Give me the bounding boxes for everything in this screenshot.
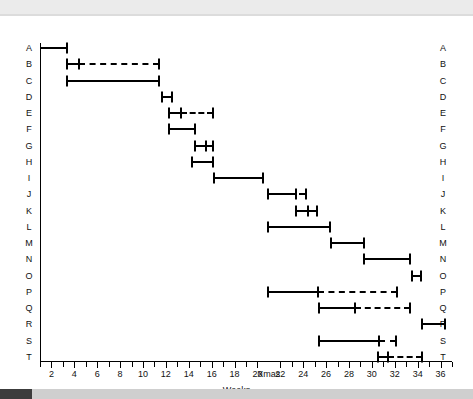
x-axis-tick <box>372 362 373 368</box>
gantt-cap-end-r <box>444 319 446 330</box>
x-axis-tick <box>223 362 224 367</box>
gantt-cap-dashed-end-k <box>316 205 318 216</box>
row-label-left-k: K <box>24 206 34 215</box>
gantt-bar-solid-l <box>268 226 330 228</box>
gantt-cap-dashed-end-q <box>409 303 411 314</box>
gantt-chart-figure: 2468101214161820Xmas2224262830323436 ABC… <box>0 16 473 389</box>
row-label-left-a: A <box>24 44 34 53</box>
gantt-cap-start-s <box>318 335 320 346</box>
gantt-bar-dashed-q <box>355 307 410 309</box>
row-label-left-l: L <box>24 222 34 231</box>
x-axis-tick <box>189 362 190 368</box>
horizontal-scrollbar-track[interactable] <box>0 389 473 399</box>
gantt-bar-solid-q <box>319 307 354 309</box>
row-label-left-q: Q <box>24 304 34 313</box>
gantt-bar-dashed-t <box>388 356 422 358</box>
gantt-cap-dashed-end-p <box>396 286 398 297</box>
x-axis-tick <box>406 362 407 367</box>
row-label-left-p: P <box>24 287 34 296</box>
row-label-left-j: J <box>24 190 34 199</box>
x-axis-tick <box>280 362 281 368</box>
row-label-left-r: R <box>24 320 34 329</box>
row-label-right-j: J <box>438 190 448 199</box>
row-label-right-g: G <box>438 141 448 150</box>
gantt-cap-start-e <box>168 108 170 119</box>
row-label-right-k: K <box>438 206 448 215</box>
gantt-cap-start-q <box>318 303 320 314</box>
x-axis-tick <box>315 362 316 367</box>
gantt-cap-end-i <box>262 173 264 184</box>
gantt-cap-end-l <box>329 221 331 232</box>
gantt-cap-end-m <box>363 238 365 249</box>
row-label-left-g: G <box>24 141 34 150</box>
gantt-cap-start-t <box>377 352 379 363</box>
x-axis-tick <box>86 362 87 367</box>
gantt-cap-start-i <box>213 173 215 184</box>
row-label-right-b: B <box>438 60 448 69</box>
x-axis-tick-label: 16 <box>207 369 217 379</box>
gantt-cap-start-g <box>194 140 196 151</box>
x-axis-tick <box>200 362 201 367</box>
gantt-cap-dashed-end-t <box>421 352 423 363</box>
gantt-cap-end-o <box>420 270 422 281</box>
row-label-right-n: N <box>438 255 448 264</box>
x-axis-tick-label: 14 <box>184 369 194 379</box>
x-axis-tick <box>154 362 155 367</box>
gantt-cap-start-j <box>267 189 269 200</box>
row-label-right-s: S <box>438 336 448 345</box>
x-axis-tick <box>418 362 419 368</box>
gantt-cap-end-c <box>158 75 160 86</box>
row-label-right-a: A <box>438 44 448 53</box>
x-axis-tick <box>360 362 361 367</box>
gantt-bar-dashed-b <box>79 63 159 65</box>
x-axis-tick-label: 12 <box>161 369 171 379</box>
x-axis-tick-label: 10 <box>138 369 148 379</box>
gantt-bar-solid-m <box>331 242 364 244</box>
x-axis-tick-label: 4 <box>72 369 77 379</box>
gantt-bar-solid-f <box>169 128 194 130</box>
gantt-bar-dashed-s <box>379 340 396 342</box>
gantt-cap-start-k <box>295 205 297 216</box>
horizontal-scrollbar-thumb[interactable] <box>0 389 32 399</box>
row-label-left-f: F <box>24 125 34 134</box>
gantt-bar-solid-c <box>67 80 159 82</box>
x-axis-tick <box>326 362 327 368</box>
x-axis-tick <box>452 362 453 367</box>
row-label-left-n: N <box>24 255 34 264</box>
row-label-left-s: S <box>24 336 34 345</box>
row-label-right-p: P <box>438 287 448 296</box>
gantt-bar-solid-j <box>268 193 297 195</box>
row-label-left-i: I <box>24 174 34 183</box>
x-axis-tick <box>63 362 64 367</box>
gantt-cap-end-d <box>171 91 173 102</box>
x-axis-tick <box>441 362 442 368</box>
gantt-cap-dashed-end-b <box>158 59 160 70</box>
x-axis-tick <box>97 362 98 368</box>
x-axis-tick <box>338 362 339 367</box>
gantt-cap-end-f <box>194 124 196 135</box>
x-axis-tick-label: 30 <box>367 369 377 379</box>
row-label-right-c: C <box>438 76 448 85</box>
x-axis-tick-label: 2 <box>49 369 54 379</box>
x-axis-tick <box>120 362 121 368</box>
gantt-cap-start-d <box>161 91 163 102</box>
x-axis-tick <box>303 362 304 368</box>
gantt-cap-end-n <box>409 254 411 265</box>
window-top-band <box>0 0 473 14</box>
gantt-cap-start-b <box>66 59 68 70</box>
gantt-cap-start-o <box>411 270 413 281</box>
gantt-cap-dashed-end-s <box>395 335 397 346</box>
gantt-bar-solid-a <box>40 47 67 49</box>
x-axis-tick <box>292 362 293 367</box>
x-axis-tick <box>235 362 236 368</box>
gantt-cap-start-l <box>267 221 269 232</box>
gantt-bar-dashed-p <box>318 291 397 293</box>
row-label-right-m: M <box>438 239 448 248</box>
row-label-right-h: H <box>438 157 448 166</box>
x-axis-tick <box>383 362 384 367</box>
x-axis-tick-label: 34 <box>413 369 423 379</box>
x-axis-tick <box>74 362 75 368</box>
row-label-left-b: B <box>24 60 34 69</box>
x-axis-tick <box>246 362 247 367</box>
x-axis-tick <box>40 362 41 367</box>
